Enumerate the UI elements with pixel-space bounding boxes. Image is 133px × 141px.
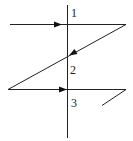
label-2: 2 — [70, 63, 76, 77]
arrow-down-left-icon — [69, 49, 78, 56]
zigzag-diagram: 1 2 3 — [0, 0, 133, 141]
arrow-right-icon — [54, 22, 62, 28]
label-3: 3 — [71, 96, 77, 110]
arrow-right-icon — [59, 87, 67, 93]
label-1: 1 — [71, 6, 77, 20]
short-diagonal-line — [102, 90, 126, 106]
